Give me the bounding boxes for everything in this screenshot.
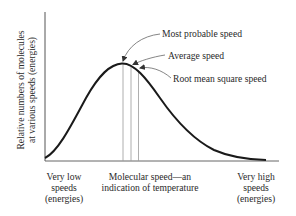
x-axis-label-line1: Molecular speed—an [109, 171, 192, 182]
y-axis-label: Relative numbers of molecules at various… [15, 30, 38, 149]
most-probable-speed-label: Most probable speed [162, 28, 242, 39]
x-right-label-line2: speeds [243, 182, 269, 193]
y-axis-label-line1: Relative numbers of molecules [15, 30, 26, 149]
x-right-label-line1: Very high [237, 171, 275, 182]
x-right-label: Very high speeds (energies) [237, 171, 275, 205]
x-axis-label: Molecular speed—an indication of tempera… [102, 171, 199, 193]
x-left-label: Very low speeds (energies) [45, 171, 83, 205]
x-left-label-line3: (energies) [45, 193, 83, 205]
average-arrow [133, 55, 165, 65]
x-left-label-line1: Very low [47, 171, 82, 182]
x-right-label-line3: (energies) [237, 193, 275, 205]
y-axis-label-line2: at various speeds (energies) [26, 37, 38, 143]
x-axis-label-line2: indication of temperature [102, 182, 199, 193]
average-speed-label: Average speed [168, 50, 224, 61]
x-left-label-line2: speeds [51, 182, 77, 193]
speed-distribution-diagram: Most probable speed Average speed Root m… [0, 0, 296, 216]
rms-speed-label: Root mean square speed [173, 73, 267, 84]
